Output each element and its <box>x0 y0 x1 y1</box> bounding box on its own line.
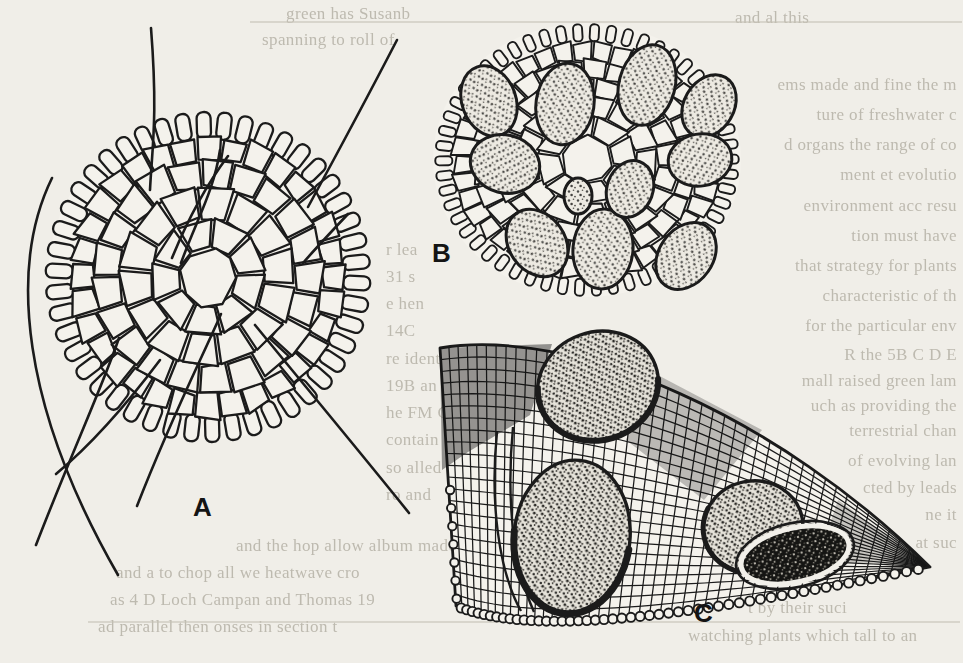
scanned-page: green has Susanband al thisspanning to r… <box>0 0 963 663</box>
panel-label-a: A <box>193 492 212 523</box>
panel-label-b: B <box>432 238 451 269</box>
panel-label-c: C <box>694 598 713 629</box>
figure-illustration <box>0 0 963 663</box>
